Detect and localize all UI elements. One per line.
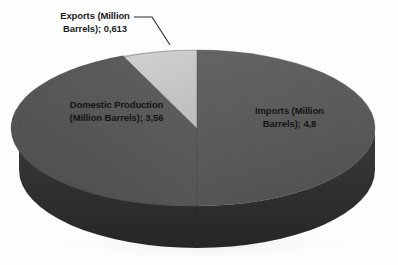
- data-label-imports-line1: Imports (Million: [222, 105, 357, 118]
- data-label-exports-line2: Barrels); 0,613: [30, 23, 160, 36]
- data-label-imports: Imports (Million Barrels); 4,8: [222, 105, 357, 131]
- data-label-imports-line2: Barrels); 4,8: [222, 118, 357, 131]
- data-label-domestic-line2: (Million Barrels); 3,56: [34, 112, 199, 125]
- data-label-domestic-production: Domestic Production (Million Barrels); 3…: [34, 99, 199, 125]
- data-label-exports-line1: Exports (Million: [30, 10, 160, 23]
- chart-canvas: Exports (Million Barrels); 0,613 Domesti…: [0, 0, 398, 265]
- data-label-exports: Exports (Million Barrels); 0,613: [30, 10, 160, 36]
- pie-chart-graphic: [0, 0, 398, 265]
- data-label-domestic-line1: Domestic Production: [34, 99, 199, 112]
